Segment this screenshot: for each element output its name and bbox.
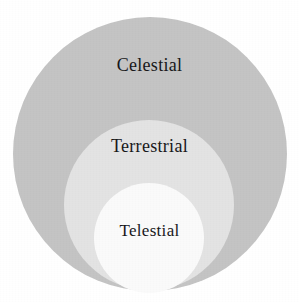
degrees-of-glory-diagram: Celestial Terrestrial Telestial <box>0 0 299 302</box>
label-celestial: Celestial <box>0 55 299 76</box>
label-terrestrial: Terrestrial <box>0 136 299 157</box>
label-telestial: Telestial <box>0 221 299 241</box>
